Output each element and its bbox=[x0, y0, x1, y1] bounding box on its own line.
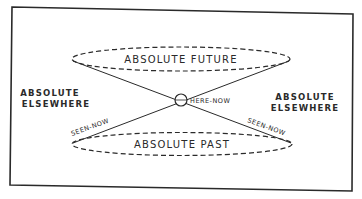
elsewhere-right-label-line2: ELSEWHERE bbox=[271, 103, 340, 113]
here-now-label: HERE-NOW bbox=[190, 97, 230, 105]
seen-now-right-label: SEEN-NOW bbox=[246, 116, 286, 137]
absolute-future-label: ABSOLUTE FUTURE bbox=[124, 54, 238, 65]
light-cone-diagram: ABSOLUTE FUTURE ABSOLUTE PAST ABSOLUTE E… bbox=[0, 0, 362, 199]
seen-now-left-label: SEEN-NOW bbox=[70, 117, 110, 138]
elsewhere-left-label-line2: ELSEWHERE bbox=[22, 99, 91, 109]
elsewhere-right-label-line1: ABSOLUTE bbox=[275, 92, 335, 102]
absolute-past-label: ABSOLUTE PAST bbox=[134, 139, 230, 150]
elsewhere-left-label-line1: ABSOLUTE bbox=[20, 88, 80, 98]
